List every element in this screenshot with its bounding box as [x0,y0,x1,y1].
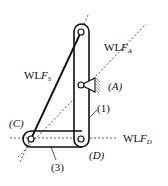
pin-a [78,82,84,88]
label-wlf-s: WLFS [24,70,51,83]
label-point-a: (A) [108,81,122,92]
leader-1 [89,110,97,118]
ground-hatch-icon [96,78,100,93]
label-link-1: (1) [97,103,110,114]
diagram-drawing [0,0,168,186]
pin-c [28,136,34,142]
label-point-c: (C) [9,118,24,129]
label-wlf-d: WLFD [123,133,152,146]
pin-d [78,136,84,142]
label-wlf-a: WLFA [104,42,132,55]
mechanism-diagram: WLFS WLFA WLFD (A) (C) (D) (1) (3) [0,0,168,186]
label-link-3: (3) [51,162,64,173]
label-point-d: (D) [89,150,104,161]
leader-3 [51,147,56,160]
pin-top [78,29,84,35]
